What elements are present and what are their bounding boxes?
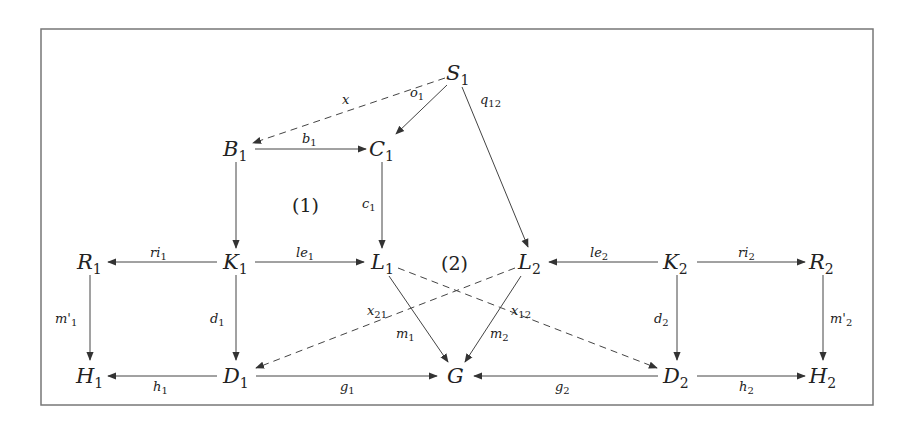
label-x12: x12 bbox=[511, 303, 531, 320]
node-d1: D1 bbox=[222, 364, 249, 391]
node-g: G bbox=[447, 364, 464, 388]
label-mprime1: m'1 bbox=[55, 311, 77, 328]
node-c1: C1 bbox=[369, 137, 394, 164]
label-m2: m2 bbox=[490, 326, 509, 343]
label-ri1: ri1 bbox=[150, 245, 167, 262]
edge-labels: x o1 q12 b1 c1 ri1 le1 le2 ri2 m'1 d1 d2… bbox=[55, 85, 852, 396]
nodes: S1 B1 C1 R1 K1 L1 L2 K2 R2 H1 D1 G D2 H2 bbox=[75, 61, 836, 391]
edges bbox=[90, 78, 823, 376]
node-r2: R2 bbox=[808, 250, 834, 277]
label-d1: d1 bbox=[210, 311, 225, 328]
node-s1: S1 bbox=[446, 61, 469, 88]
node-b1: B1 bbox=[222, 137, 247, 164]
node-d2: D2 bbox=[662, 364, 689, 391]
region-1-marker: (1) bbox=[292, 194, 319, 216]
node-k1: K1 bbox=[222, 250, 248, 277]
label-q12: q12 bbox=[480, 92, 501, 109]
label-h2: h2 bbox=[739, 379, 754, 396]
diagram-frame bbox=[41, 29, 873, 405]
label-b1: b1 bbox=[302, 131, 317, 148]
node-k2: K2 bbox=[662, 250, 688, 277]
label-m1: m1 bbox=[396, 326, 415, 343]
label-g1: g1 bbox=[340, 379, 355, 396]
commutative-diagram: S1 B1 C1 R1 K1 L1 L2 K2 R2 H1 D1 G D2 H2… bbox=[0, 0, 912, 425]
label-g2: g2 bbox=[555, 379, 570, 396]
label-le2: le2 bbox=[590, 245, 608, 262]
edge-l1-g bbox=[389, 276, 448, 362]
label-ri2: ri2 bbox=[738, 245, 755, 262]
label-c1: c1 bbox=[362, 196, 376, 213]
node-r1: R1 bbox=[76, 250, 102, 277]
node-l1: L1 bbox=[370, 250, 394, 277]
label-x: x bbox=[342, 92, 350, 107]
edge-s1-l2 bbox=[462, 87, 528, 247]
label-x21: x21 bbox=[367, 303, 387, 320]
label-o1: o1 bbox=[410, 85, 424, 102]
label-d2: d2 bbox=[654, 311, 669, 328]
node-h1: H1 bbox=[75, 364, 103, 391]
node-h2: H2 bbox=[808, 364, 836, 391]
edge-l2-g bbox=[465, 276, 521, 362]
label-mprime2: m'2 bbox=[830, 311, 852, 328]
node-l2: L2 bbox=[517, 250, 541, 277]
label-h1: h1 bbox=[153, 379, 168, 396]
label-le1: le1 bbox=[296, 245, 314, 262]
region-2-marker: (2) bbox=[441, 252, 468, 274]
